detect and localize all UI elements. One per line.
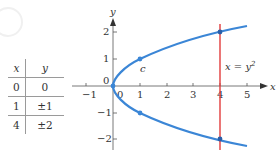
y-tick-label: 2 bbox=[103, 26, 109, 37]
y-tick-label: −2 bbox=[97, 133, 112, 144]
x-axis-arrow-icon bbox=[260, 83, 268, 89]
y-tick-label: −1 bbox=[97, 107, 112, 118]
x-axis-label: x bbox=[270, 81, 276, 92]
x-tick-label: 3 bbox=[190, 89, 196, 100]
y-tick-label: 0 bbox=[103, 75, 109, 86]
y-axis-label: y bbox=[109, 6, 116, 17]
x-tick-label: 2 bbox=[164, 89, 170, 100]
x-tick-label: −1 bbox=[82, 89, 97, 100]
y-tick-label: 1 bbox=[103, 53, 109, 64]
point-label-c: c bbox=[140, 63, 146, 74]
x-tick-label: 1 bbox=[137, 89, 143, 100]
point-origin bbox=[111, 84, 116, 89]
point-4-2 bbox=[218, 30, 223, 35]
x-tick-label: 5 bbox=[244, 89, 250, 100]
curve-label: x = y2 bbox=[225, 60, 256, 72]
y-axis-arrow-icon bbox=[110, 18, 116, 26]
faint-circle-artifact bbox=[0, 8, 22, 36]
parabola-plot: −1 0 1 2 3 4 5 2 1 0 −1 −2 y x c x = y2 bbox=[0, 0, 276, 158]
point-4-neg2 bbox=[218, 137, 223, 142]
point-1-neg1 bbox=[138, 111, 143, 116]
point-c bbox=[138, 57, 143, 62]
x-ticks bbox=[86, 83, 247, 86]
